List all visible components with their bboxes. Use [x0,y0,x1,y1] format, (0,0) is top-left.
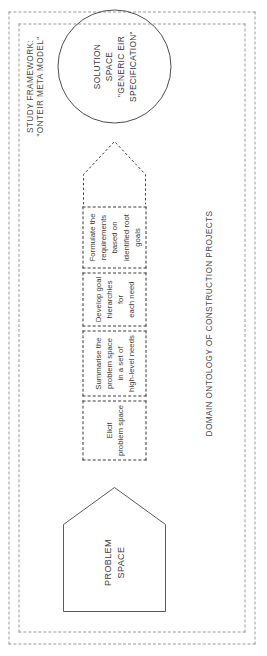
chevron-arrow-icon [82,140,146,204]
problem-space-shape: PROBLEM SPACE [62,486,166,612]
process-step-label: Summarise the problem space in a set of … [92,335,136,392]
solution-space-label: SOLUTION SPACE "GENERIC EIR SPECIFICATIO… [90,31,139,102]
process-step-label: Elicit problem space [103,404,125,455]
process-step-label: Develop goal hierarchies for each need [92,276,136,322]
process-step-box: Develop goal hierarchies for each need [82,272,146,326]
process-step-box: Summarise the problem space in a set of … [82,330,146,396]
process-step-box: Formulate the requirements based on iden… [82,206,146,268]
rotated-figure: STUDY FRAMEWORK: "ONTEIR META MODEL" DOM… [0,0,267,656]
process-step-label: Formulate the requirements based on iden… [86,213,141,261]
study-framework-label: STUDY FRAMEWORK: "ONTEIR META MODEL" [24,21,45,151]
diagram-canvas: STUDY FRAMEWORK: "ONTEIR META MODEL" DOM… [0,0,267,656]
process-step-box: Elicit problem space [82,400,146,460]
problem-space-label: PROBLEM SPACE [62,512,166,612]
domain-ontology-label: DOMAIN ONTOLOGY OF CONSTRUCTION PROJECTS [203,208,213,438]
solution-space-shape: SOLUTION SPACE "GENERIC EIR SPECIFICATIO… [57,9,171,123]
